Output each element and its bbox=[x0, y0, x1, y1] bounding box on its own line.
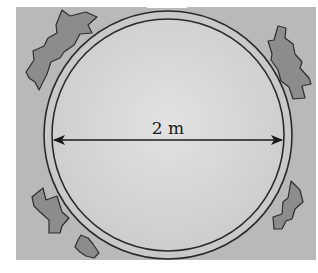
diameter-label: 2 m bbox=[152, 118, 184, 138]
pool-diagram: 2 m bbox=[0, 0, 318, 273]
top-crop-gap bbox=[147, 0, 187, 8]
